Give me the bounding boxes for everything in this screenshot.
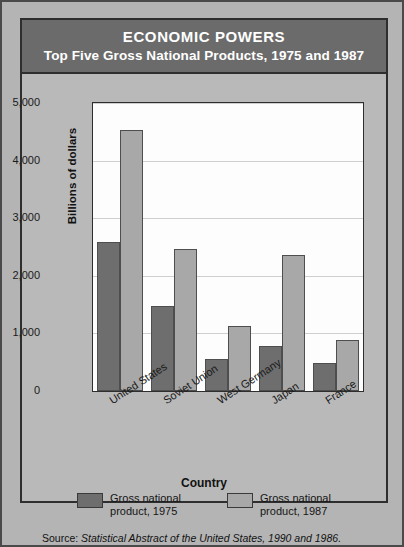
legend-item: Gross national product, 1975 — [77, 492, 181, 517]
y-axis-label: Billions of dollars — [66, 106, 78, 246]
bar — [282, 255, 305, 392]
y-tick-label: 3,000 — [0, 211, 40, 223]
y-tick-label: 1,000 — [0, 326, 40, 338]
chart-title: ECONOMIC POWERS — [123, 28, 285, 46]
bar — [174, 249, 197, 391]
legend-swatch — [77, 493, 103, 508]
y-tick-label: 5,000 — [0, 96, 40, 108]
source-prefix: Source: — [42, 532, 81, 544]
chart-panel: ECONOMIC POWERS Top Five Gross National … — [20, 18, 388, 503]
y-tick-label: 0 — [0, 384, 40, 396]
bar — [120, 130, 143, 391]
title-band: ECONOMIC POWERS Top Five Gross National … — [22, 20, 386, 74]
source-citation: Statistical Abstract of the United State… — [81, 532, 341, 544]
legend-swatch — [227, 493, 253, 508]
y-tick-label: 4,000 — [0, 154, 40, 166]
plot-area — [92, 102, 364, 392]
x-axis-label: Country — [22, 476, 386, 490]
legend-item: Gross national product, 1987 — [227, 492, 331, 517]
legend-label: Gross national product, 1975 — [110, 492, 181, 517]
gridline — [93, 103, 363, 104]
bar — [313, 363, 336, 391]
chart-subtitle: Top Five Gross National Products, 1975 a… — [44, 47, 364, 64]
figure-frame: ECONOMIC POWERS Top Five Gross National … — [0, 0, 404, 547]
legend-label: Gross national product, 1987 — [260, 492, 331, 517]
source-note: Source: Statistical Abstract of the Unit… — [42, 532, 341, 544]
y-tick-label: 2,000 — [0, 269, 40, 281]
legend: Gross national product, 1975Gross nation… — [22, 492, 386, 517]
bar — [97, 242, 120, 391]
